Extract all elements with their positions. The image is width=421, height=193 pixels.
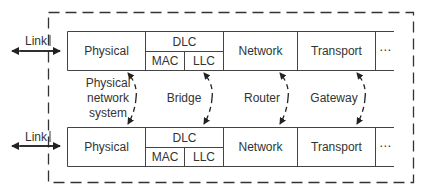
- bridge-label: Bridge: [160, 91, 208, 106]
- layer-physical: Physical: [68, 32, 145, 70]
- router-label: Router: [238, 91, 286, 106]
- gateway-label: Gateway: [306, 91, 362, 106]
- layer-physical: Physical: [68, 128, 145, 166]
- link-label-bottom: Link: [24, 130, 48, 145]
- layer-mac: MAC: [146, 148, 184, 166]
- physical-network-system-label: Physical network system: [78, 76, 138, 121]
- link-label-top: Link: [24, 34, 48, 49]
- layer-network: Network: [224, 128, 297, 166]
- layer-more: ⋯: [376, 128, 394, 164]
- layer-dlc: DLC: [146, 128, 223, 147]
- layer-llc: LLC: [185, 148, 223, 166]
- layer-more: ⋯: [376, 32, 394, 68]
- layer-dlc: DLC: [146, 32, 223, 51]
- layer-mac: MAC: [146, 52, 184, 70]
- layer-transport: Transport: [298, 128, 375, 166]
- layer-transport: Transport: [298, 32, 375, 70]
- layer-llc: LLC: [185, 52, 223, 70]
- layer-network: Network: [224, 32, 297, 70]
